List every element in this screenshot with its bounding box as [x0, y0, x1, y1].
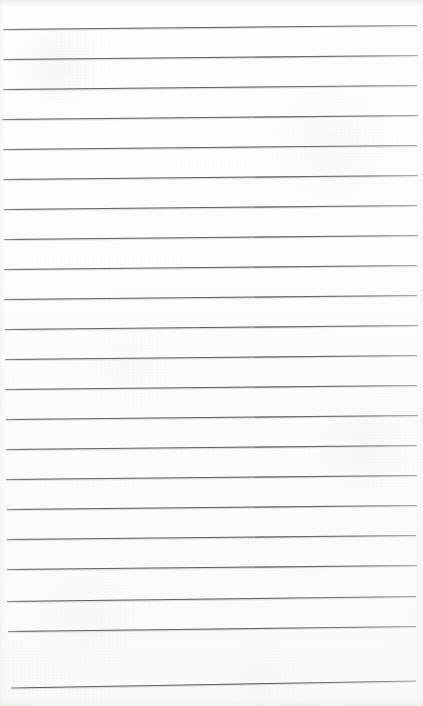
- ruled-line-halo: [3, 146, 417, 150]
- ruled-line-halo: [11, 682, 416, 689]
- ruled-line: [11, 681, 416, 688]
- ruled-line-halo: [6, 476, 417, 480]
- ruled-line: [7, 597, 416, 602]
- ruled-line-halo: [7, 536, 416, 540]
- ruled-line-halo: [4, 266, 417, 270]
- ruled-line-halo: [2, 116, 418, 120]
- scanned-notepad-page: [0, 0, 423, 706]
- ruled-line-halo: [4, 206, 417, 210]
- ruled-line-group: [2, 26, 418, 689]
- ruled-line: [8, 627, 416, 632]
- ruled-line-halo: [5, 326, 418, 330]
- ruled-line-halo: [5, 356, 417, 360]
- ruled-line-halo: [7, 597, 416, 602]
- ruled-line-halo: [7, 506, 417, 510]
- ruled-line-halo: [3, 176, 418, 180]
- ruled-line-halo: [3, 56, 418, 60]
- ruled-line-halo: [4, 236, 418, 240]
- ruled-line-halo: [8, 627, 416, 632]
- ruled-lines-svg: [0, 0, 423, 706]
- ruled-line-halo: [6, 446, 417, 450]
- ruled-line-halo: [3, 26, 417, 30]
- ruled-lines-layer: [0, 0, 423, 706]
- ruled-line-halo: [6, 416, 418, 420]
- ruled-line-halo: [4, 296, 417, 300]
- ruled-line-halo: [7, 566, 417, 570]
- ruled-line-halo: [5, 386, 417, 390]
- ruled-line-halo: [3, 86, 417, 90]
